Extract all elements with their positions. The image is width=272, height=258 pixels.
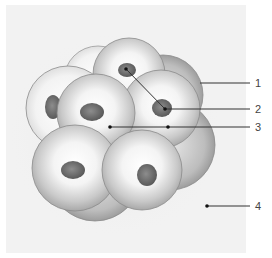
leader-dot-2b (163, 107, 167, 111)
label-4: 4 (255, 201, 261, 212)
label-1: 1 (255, 78, 261, 89)
leader-dot-3b (166, 125, 170, 129)
nucleus-bottom-left (61, 161, 85, 179)
leader-dot-3a (108, 125, 112, 129)
label-2: 2 (255, 104, 261, 115)
label-3: 3 (255, 122, 261, 133)
nucleus-right-middle (152, 99, 172, 117)
nucleus-center (80, 103, 104, 121)
leader-dot-2a (124, 67, 128, 71)
nucleus-bottom-right (137, 164, 157, 186)
leader-dot-4 (205, 204, 209, 208)
cell-cluster-illustration (0, 0, 272, 258)
diagram-canvas: 1 2 3 4 (0, 0, 272, 258)
